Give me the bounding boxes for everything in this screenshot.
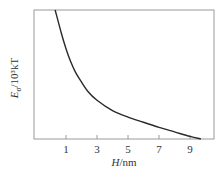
data-curve [55, 10, 201, 139]
x-axis-ticks [66, 135, 190, 139]
y-axis-label: Eσ/10³kT [8, 58, 23, 100]
x-tick-label: 5 [125, 143, 131, 155]
x-tick-label: 7 [156, 143, 162, 155]
x-tick-label: 3 [94, 143, 100, 155]
x-axis-label: H/nm [110, 156, 137, 168]
x-axis-tick-labels: 13579 [63, 143, 193, 155]
x-tick-label: 1 [63, 143, 69, 155]
chart: 13579 H/nm Eσ/10³kT [0, 0, 223, 176]
x-tick-label: 9 [187, 143, 193, 155]
